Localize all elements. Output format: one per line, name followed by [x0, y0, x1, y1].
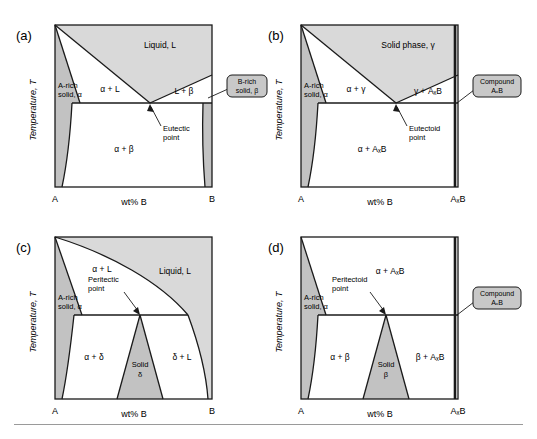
- panel-d-tag: (d): [268, 240, 284, 255]
- callout-line-2: AₓB: [491, 87, 503, 94]
- region-label-a-rich-1: A-rich: [304, 293, 324, 302]
- region-label-a-rich-1: A-rich: [304, 81, 324, 90]
- phase-diagram-figure: (a) Temperature, T wt% B A B Liquid, L α…: [0, 0, 537, 439]
- region-label-alpha-beta: α + β: [330, 352, 350, 362]
- callout-leader-line: [457, 302, 474, 315]
- region-label-alpha-delta: α + δ: [84, 352, 104, 362]
- panel-c-x-right-tick: B: [209, 406, 215, 416]
- region-a-rich-shade: [301, 237, 326, 399]
- region-a-rich-shade: [55, 237, 82, 399]
- region-label-l-beta: L + β: [175, 86, 194, 96]
- callout-line-1: Compound: [480, 290, 514, 298]
- region-label-alpha-l: α + L: [92, 264, 112, 274]
- invariant-arrow: [124, 292, 138, 311]
- region-liquid-lower-shade: [188, 315, 212, 399]
- panel-c-ylabel: Temperature, T: [28, 290, 38, 353]
- panel-c: (c) Temperature, T wt% B A B Liquid, L α…: [0, 212, 268, 424]
- region-label-delta-l: δ + L: [172, 352, 191, 362]
- invariant-label-2: point: [163, 133, 180, 142]
- region-label-a-rich-1: A-rich: [58, 293, 78, 302]
- invariant-label-2: point: [409, 133, 426, 142]
- panel-d-x-left-tick: A: [298, 406, 304, 416]
- invariant-arrowhead: [147, 104, 154, 112]
- panel-a-ylabel: Temperature, T: [28, 78, 38, 141]
- region-label-gamma-axb: γ + AₓB: [414, 86, 442, 96]
- callout-line-1: B-rich: [238, 78, 256, 85]
- panel-c-x-left-tick: A: [52, 406, 58, 416]
- region-label-liquid: Liquid, L: [159, 266, 191, 276]
- figure-separator-rule: [14, 424, 523, 425]
- invariant-label-1: Peritectoid: [332, 275, 367, 284]
- region-label-alpha-gamma: α + γ: [347, 84, 367, 94]
- invariant-arrowhead: [133, 307, 140, 315]
- invariant-label-1: Eutectic: [163, 124, 190, 133]
- panel-b-tag: (b): [268, 28, 284, 43]
- invariant-label-1: Eutectoid: [409, 124, 440, 133]
- region-a-rich-shade: [301, 25, 326, 187]
- panel-a-x-left-tick: A: [52, 194, 58, 204]
- region-label-alpha-beta: α + β: [114, 144, 134, 154]
- invariant-arrow: [370, 292, 384, 311]
- panel-b-x-right-tick: AₓB: [451, 194, 466, 204]
- panel-d-x-right-tick: AₓB: [451, 406, 466, 416]
- region-label-beta-axb: β + AₓB: [416, 352, 445, 362]
- panel-b-ylabel: Temperature, T: [274, 78, 284, 141]
- region-label-liquid: Liquid, L: [144, 40, 176, 50]
- panel-a-x-right-tick: B: [209, 194, 215, 204]
- panel-d-ylabel: Temperature, T: [274, 290, 284, 353]
- panel-b-svg: (b) Temperature, T wt% B A AₓB Solid pha…: [268, 0, 537, 212]
- invariant-arrowhead: [393, 104, 400, 112]
- panel-c-tag: (c): [16, 240, 31, 255]
- callout-line-2: AₓB: [491, 299, 503, 306]
- panel-a-tag: (a): [16, 28, 32, 43]
- region-label-alpha-axb: α + AₓB: [358, 144, 387, 154]
- region-label-solid-beta-2: β: [384, 370, 389, 379]
- panel-c-svg: (c) Temperature, T wt% B A B Liquid, L α…: [0, 212, 268, 424]
- region-label-a-rich-2: solid, α: [304, 302, 329, 311]
- panel-c-xlabel: wt% B: [120, 409, 147, 419]
- region-label-a-rich-2: solid, α: [58, 90, 83, 99]
- region-label-alpha-axb: α + AₓB: [376, 266, 405, 276]
- panel-b-x-left-tick: A: [298, 194, 304, 204]
- region-label-a-rich-2: solid, α: [58, 302, 83, 311]
- region-label-alpha-l: α + L: [100, 84, 120, 94]
- callout-leader-line: [457, 90, 474, 103]
- region-label-a-rich-1: A-rich: [58, 81, 78, 90]
- panel-d-xlabel: wt% B: [366, 409, 393, 419]
- panel-d: (d) Temperature, T wt% B A AₓB α + AₓB α…: [268, 212, 537, 424]
- callout-line-1: Compound: [480, 78, 514, 86]
- region-a-rich-shade: [55, 25, 80, 187]
- invariant-arrowhead: [379, 307, 386, 315]
- invariant-label-1: Peritectic: [88, 275, 119, 284]
- panel-a-xlabel: wt% B: [120, 197, 147, 207]
- panel-b: (b) Temperature, T wt% B A AₓB Solid pha…: [268, 0, 537, 212]
- panel-d-svg: (d) Temperature, T wt% B A AₓB α + AₓB α…: [268, 212, 537, 424]
- region-label-solid-delta-2: δ: [138, 370, 142, 379]
- callout-line-2: solid, β: [236, 87, 258, 95]
- region-label-a-rich-2: solid, α: [304, 90, 329, 99]
- region-solid-delta-shade: [117, 315, 163, 399]
- invariant-label-2: point: [88, 284, 105, 293]
- panel-a-svg: (a) Temperature, T wt% B A B Liquid, L α…: [0, 0, 268, 212]
- callout-leader-line: [208, 89, 228, 98]
- region-label-solid-gamma: Solid phase, γ: [381, 40, 435, 50]
- region-label-solid-delta-1: Solid: [132, 360, 149, 369]
- region-solid-beta-shade: [363, 315, 409, 399]
- region-label-solid-beta-1: Solid: [378, 360, 395, 369]
- invariant-label-2: point: [332, 284, 349, 293]
- panel-a: (a) Temperature, T wt% B A B Liquid, L α…: [0, 0, 268, 212]
- panel-b-xlabel: wt% B: [366, 197, 393, 207]
